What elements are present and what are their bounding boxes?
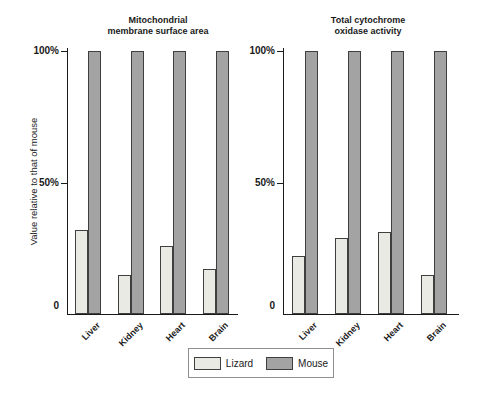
legend-entry-lizard: Lizard — [194, 357, 253, 370]
y-tick-mark — [61, 51, 67, 52]
bar-lizard-heart — [160, 246, 173, 314]
x-tick-label-brain: Brain — [401, 320, 448, 367]
bar-mouse-liver — [88, 51, 101, 314]
right-panel-title-line2: oxidase activity — [283, 26, 453, 37]
bar-mouse-kidney — [348, 51, 361, 314]
bar-lizard-heart — [378, 232, 391, 314]
legend-label-lizard: Lizard — [226, 358, 253, 369]
right-panel-title-line1: Total cytochrome — [283, 15, 453, 26]
y-axis-line — [67, 48, 68, 314]
bar-mouse-brain — [434, 51, 447, 314]
bar-mouse-kidney — [131, 51, 144, 314]
y-tick-label: 0 — [241, 300, 275, 312]
bar-lizard-brain — [421, 275, 434, 314]
bar-mouse-liver — [305, 51, 318, 314]
x-tick-label-heart: Heart — [358, 320, 405, 367]
x-tick-label-liver: Liver — [56, 320, 103, 367]
legend-label-mouse: Mouse — [298, 358, 328, 369]
y-tick-label: 100% — [25, 45, 59, 57]
x-axis-line — [67, 314, 238, 315]
bar-lizard-liver — [292, 256, 305, 314]
right-panel-title: Total cytochrome oxidase activity — [283, 15, 453, 37]
y-tick-mark — [277, 183, 283, 184]
left-panel-title: Mitochondrial membrane surface area — [73, 15, 243, 37]
bar-mouse-heart — [173, 51, 186, 314]
legend-box: Lizard Mouse — [188, 348, 334, 378]
y-tick-label: 50% — [25, 177, 59, 189]
y-tick-label: 0 — [25, 300, 59, 312]
bar-lizard-kidney — [335, 238, 348, 314]
left-panel-title-line2: membrane surface area — [73, 26, 243, 37]
dual-bar-chart-figure: Mitochondrial membrane surface area Tota… — [0, 0, 479, 398]
x-axis-line — [283, 314, 459, 315]
x-tick-label-heart: Heart — [141, 320, 188, 367]
y-tick-mark — [61, 183, 67, 184]
bar-lizard-liver — [75, 230, 88, 314]
bar-lizard-kidney — [118, 275, 131, 314]
bar-mouse-brain — [216, 51, 229, 314]
y-tick-label: 100% — [241, 45, 275, 57]
mouse-swatch — [266, 357, 293, 370]
y-tick-mark — [277, 51, 283, 52]
bar-lizard-brain — [203, 269, 216, 314]
x-tick-label-kidney: Kidney — [98, 320, 145, 367]
y-tick-label: 50% — [241, 177, 275, 189]
bar-mouse-heart — [391, 51, 404, 314]
y-axis-line — [283, 48, 284, 314]
lizard-swatch — [194, 357, 221, 370]
left-panel-title-line1: Mitochondrial — [73, 15, 243, 26]
legend-entry-mouse: Mouse — [266, 357, 328, 370]
